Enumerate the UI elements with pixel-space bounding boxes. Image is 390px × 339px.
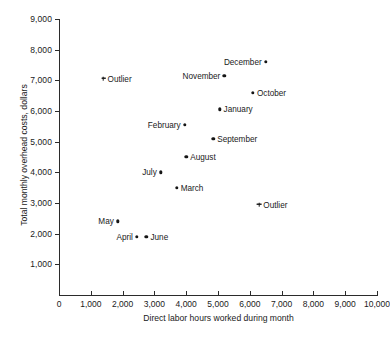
data-point-label: March <box>181 183 204 192</box>
y-tick-mark <box>55 234 59 235</box>
data-point-label: April <box>117 232 133 241</box>
x-tick-label: 0 <box>57 299 62 309</box>
y-axis-title: Total monthly overhead costs, dollars <box>19 45 29 265</box>
x-tick-mark <box>154 291 155 295</box>
x-tick-mark <box>377 291 378 295</box>
y-axis-line <box>59 19 60 296</box>
data-point-marker <box>251 91 254 94</box>
data-point-marker <box>184 155 187 158</box>
data-point-marker <box>175 186 178 189</box>
y-tick-label: 7,000 <box>30 75 52 85</box>
x-tick-mark <box>282 291 283 295</box>
data-point-label: December <box>224 57 262 66</box>
y-tick-mark <box>55 50 59 51</box>
data-point-label: October <box>257 88 286 97</box>
data-point-label: February <box>148 120 181 129</box>
x-tick-label: 6,000 <box>239 299 260 309</box>
data-point-marker <box>101 77 106 82</box>
data-point-label: January <box>224 105 253 114</box>
data-point-marker <box>218 108 221 111</box>
data-point-label: May <box>98 217 113 226</box>
y-tick-label: 4,000 <box>30 167 52 177</box>
y-tick-label: 8,000 <box>30 45 52 55</box>
y-tick-label: 5,000 <box>30 137 52 147</box>
y-tick-mark <box>55 111 59 112</box>
x-tick-label: 3,000 <box>144 299 165 309</box>
x-tick-label: 10,000 <box>364 299 390 309</box>
y-tick-label: 9,000 <box>30 14 52 24</box>
y-tick-mark <box>55 172 59 173</box>
x-tick-mark <box>345 291 346 295</box>
x-tick-mark <box>186 291 187 295</box>
data-point-label: August <box>190 153 216 162</box>
data-point-label: Outlier <box>263 200 287 209</box>
y-tick-label: 1,000 <box>30 259 52 269</box>
data-point-label: November <box>183 71 221 80</box>
y-tick-label: 2,000 <box>30 229 52 239</box>
data-point-marker <box>183 123 186 126</box>
data-point-label: September <box>217 134 257 143</box>
data-point-label: Outlier <box>108 74 132 83</box>
x-tick-label: 1,000 <box>80 299 101 309</box>
y-tick-mark <box>55 19 59 20</box>
data-point-label: June <box>150 232 168 241</box>
y-tick-mark <box>55 264 59 265</box>
data-point-marker <box>212 137 215 140</box>
x-tick-mark <box>123 291 124 295</box>
y-tick-mark <box>55 203 59 204</box>
x-tick-label: 7,000 <box>271 299 292 309</box>
x-tick-label: 5,000 <box>207 299 228 309</box>
x-tick-label: 4,000 <box>176 299 197 309</box>
data-point-label: July <box>142 168 157 177</box>
data-point-marker <box>135 235 138 238</box>
y-tick-label: 3,000 <box>30 198 52 208</box>
x-tick-mark <box>250 291 251 295</box>
data-point-marker <box>159 171 162 174</box>
cut-off-caption <box>44 0 244 3</box>
y-tick-label: 6,000 <box>30 106 52 116</box>
data-point-marker <box>223 74 226 77</box>
data-point-marker <box>257 202 262 207</box>
x-tick-mark <box>313 291 314 295</box>
x-tick-label: 8,000 <box>303 299 324 309</box>
x-axis-title: Direct labor hours worked during month <box>59 313 378 323</box>
data-point-marker <box>145 235 148 238</box>
y-tick-mark <box>55 142 59 143</box>
data-point-marker <box>116 220 119 223</box>
y-tick-mark <box>55 80 59 81</box>
x-tick-mark <box>91 291 92 295</box>
data-point-marker <box>264 60 267 63</box>
x-tick-label: 9,000 <box>335 299 356 309</box>
x-axis-line <box>59 295 378 296</box>
x-tick-label: 2,000 <box>112 299 133 309</box>
x-tick-mark <box>218 291 219 295</box>
